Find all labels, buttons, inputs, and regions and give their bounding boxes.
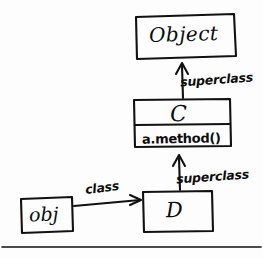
diagram-canvas: Object C a.method() D obj superclass sup… [0,0,263,258]
class-box-object-label: Object [149,21,219,47]
instance-box-obj-label: obj [29,202,59,225]
class-box-d-label: D [166,198,183,222]
class-box-c-method-label: a.method() [142,130,221,146]
arrow-obj-to-d [74,195,141,206]
class-box-c-label: C [170,101,187,126]
